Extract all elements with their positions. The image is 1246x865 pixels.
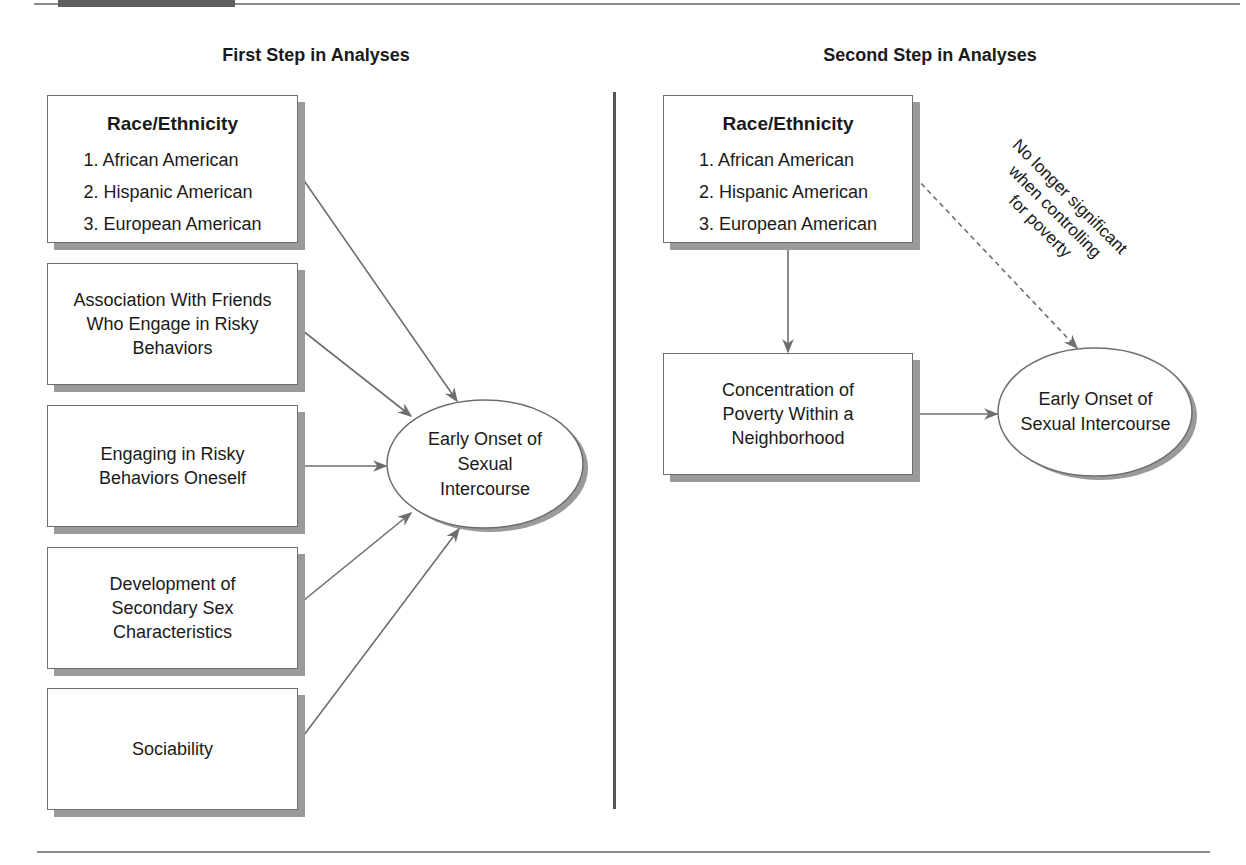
panel-divider xyxy=(613,92,616,809)
race-heading: Race/Ethnicity xyxy=(723,112,854,136)
race-ethnicity-box-1: Race/Ethnicity 1. African American 2. Hi… xyxy=(47,95,298,243)
secondary-sex-box: Development of Secondary Sex Characteris… xyxy=(47,547,298,669)
bottom-rule xyxy=(37,851,1210,853)
second-step-title: Second Step in Analyses xyxy=(780,45,1080,66)
box-text-line: Characteristics xyxy=(113,620,232,644)
arrow-race-to-outcome xyxy=(298,172,457,401)
sociability-box: Sociability xyxy=(47,688,298,810)
race-item: 3. European American xyxy=(83,208,261,240)
box-text-line: Who Engage in Risky xyxy=(86,312,258,336)
race-item: 3. European American xyxy=(699,208,877,240)
outcome-label-1: Early Onset of Sexual Intercourse xyxy=(387,400,583,528)
box-text-line: Development of xyxy=(109,572,235,596)
race-item: 1. African American xyxy=(83,144,261,176)
box-text-line: Neighborhood xyxy=(731,426,844,450)
race-heading: Race/Ethnicity xyxy=(107,112,238,136)
box-text-line: Association With Friends xyxy=(73,288,271,312)
first-step-title: First Step in Analyses xyxy=(166,45,466,66)
box-text-line: Engaging in Risky xyxy=(100,442,244,466)
race-item: 2. Hispanic American xyxy=(699,176,877,208)
arrow-sociability-to-outcome xyxy=(298,529,459,743)
race-item: 1. African American xyxy=(699,144,877,176)
box-text-line: Sociability xyxy=(132,737,213,761)
race-ethnicity-box-2: Race/Ethnicity 1. African American 2. Hi… xyxy=(663,95,913,243)
ellipse-text-line: Intercourse xyxy=(440,477,530,502)
friends-risky-box: Association With Friends Who Engage in R… xyxy=(47,263,298,385)
ellipse-text-line: Early Onset of xyxy=(428,427,542,452)
race-item: 2. Hispanic American xyxy=(83,176,261,208)
box-text-line: Concentration of xyxy=(722,378,854,402)
risky-oneself-box: Engaging in Risky Behaviors Oneself xyxy=(47,405,298,527)
race-list: 1. African American 2. Hispanic American… xyxy=(699,144,877,240)
outcome-label-2: Early Onset of Sexual Intercourse xyxy=(998,348,1193,476)
ellipse-text-line: Early Onset of xyxy=(1038,387,1152,412)
box-text-line: Behaviors Oneself xyxy=(99,466,246,490)
box-text-line: Behaviors xyxy=(132,336,212,360)
ellipse-text-line: Sexual xyxy=(457,452,512,477)
box-text-line: Secondary Sex xyxy=(111,596,233,620)
ellipse-text-line: Sexual Intercourse xyxy=(1020,412,1170,437)
box-text-line: Poverty Within a xyxy=(722,402,853,426)
race-list: 1. African American 2. Hispanic American… xyxy=(83,144,261,240)
poverty-concentration-box: Concentration of Poverty Within a Neighb… xyxy=(663,353,913,475)
